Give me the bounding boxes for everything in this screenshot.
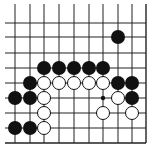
point-marker-dot (101, 96, 105, 100)
black-stone (37, 61, 51, 75)
white-stone (112, 92, 125, 105)
white-stone (38, 107, 51, 120)
black-stone (23, 91, 37, 105)
black-stone (52, 61, 66, 75)
white-stone (38, 92, 51, 105)
black-stone (67, 61, 81, 75)
markers-layer (101, 96, 105, 100)
black-stone (8, 121, 22, 135)
white-stone (83, 77, 96, 90)
white-stone (97, 77, 110, 90)
white-stone (53, 77, 66, 90)
white-stone (68, 77, 81, 90)
go-board-diagram (0, 0, 150, 153)
white-stone (38, 77, 51, 90)
black-stone (82, 61, 96, 75)
black-stone (111, 76, 125, 90)
black-stone (23, 76, 37, 90)
black-stone (96, 61, 110, 75)
black-stone (111, 30, 125, 44)
black-stone (23, 121, 37, 135)
white-stone (38, 122, 51, 135)
white-stone (126, 107, 139, 120)
black-stone (8, 91, 22, 105)
black-stone (125, 76, 139, 90)
white-stone (97, 107, 110, 120)
go-board-svg (0, 0, 150, 153)
black-stone (125, 91, 139, 105)
